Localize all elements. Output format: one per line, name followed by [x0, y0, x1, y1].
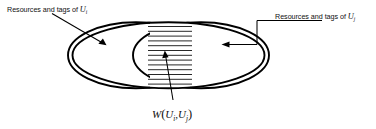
- formula-close-paren: ): [188, 107, 192, 121]
- right-label-prefix: Resources and tags of: [275, 12, 348, 21]
- left-label-subscript: i: [86, 9, 88, 15]
- left-set-label: Resources and tags of Ui: [7, 5, 88, 15]
- intersection-formula-label: W(Ui,Uj): [152, 107, 192, 123]
- right-label-subscript: j: [353, 16, 356, 22]
- left-label-prefix: Resources and tags of: [7, 5, 80, 14]
- venn-diagram-canvas: Resources and tags of Ui Resources and t…: [0, 0, 376, 129]
- right-set-label: Resources and tags of Uj: [275, 12, 356, 22]
- venn-diagram-figure: Resources and tags of Ui Resources and t…: [0, 0, 376, 129]
